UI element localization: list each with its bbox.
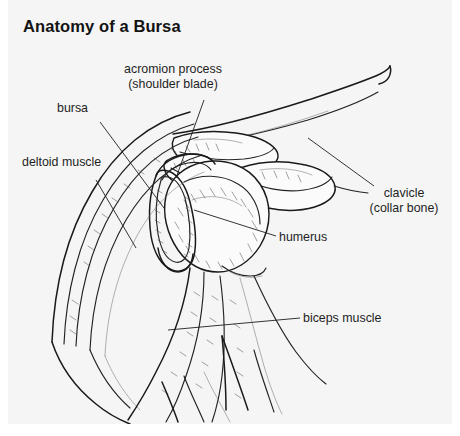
biceps-muscle bbox=[128, 268, 326, 422]
label-clavicle: clavicle (collar bone) bbox=[356, 186, 452, 215]
lower-muscle-fibers bbox=[162, 336, 274, 422]
label-clavicle-line1: clavicle bbox=[356, 186, 452, 201]
humerus-bone bbox=[165, 161, 269, 277]
label-clavicle-line2: (collar bone) bbox=[356, 201, 452, 216]
biceps-striation bbox=[162, 292, 243, 398]
label-acromion-line2: (shoulder blade) bbox=[108, 77, 238, 92]
anatomy-figure: Anatomy of a Bursa acromion process (sho… bbox=[0, 0, 460, 436]
label-deltoid-muscle: deltoid muscle bbox=[22, 155, 101, 170]
illustration-plate: Anatomy of a Bursa acromion process (sho… bbox=[8, 0, 452, 424]
label-acromion-line1: acromion process bbox=[108, 62, 238, 77]
label-bursa: bursa bbox=[57, 101, 88, 116]
label-acromion-process: acromion process (shoulder blade) bbox=[108, 62, 238, 91]
label-biceps-muscle: biceps muscle bbox=[303, 311, 382, 326]
page-title: Anatomy of a Bursa bbox=[23, 17, 181, 36]
label-humerus: humerus bbox=[279, 230, 327, 245]
